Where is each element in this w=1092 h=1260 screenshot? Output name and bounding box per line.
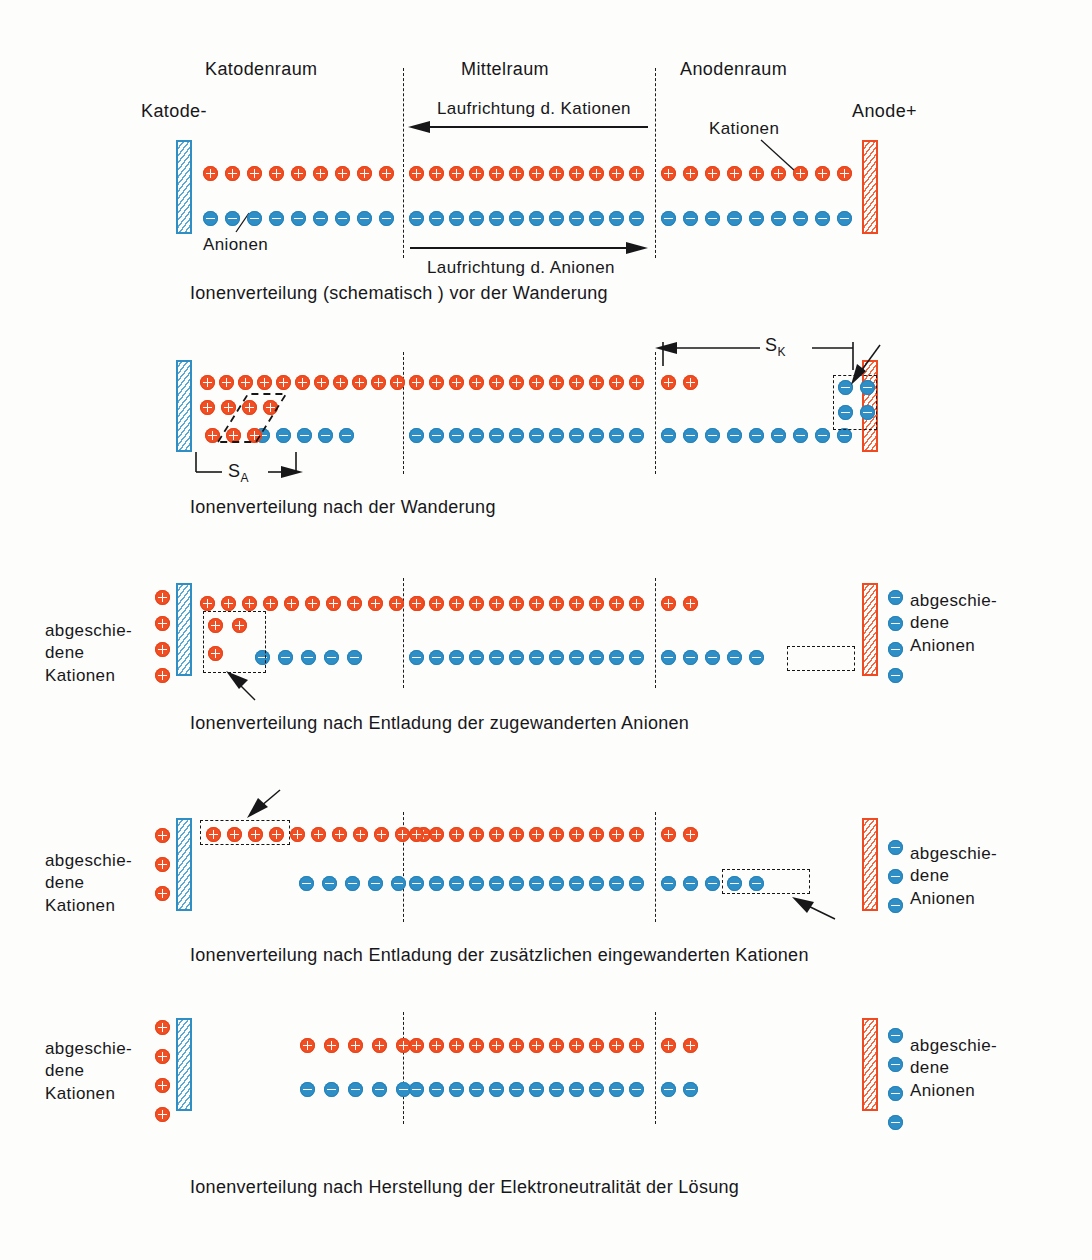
cation-ion xyxy=(300,1038,315,1053)
anion-ion xyxy=(683,1082,698,1097)
caption-stage-4: Ionenverteilung nach Entladung der zusät… xyxy=(190,944,809,967)
cation-ion xyxy=(469,1038,484,1053)
cation-ion xyxy=(429,1038,444,1053)
cathode-electrode xyxy=(176,1018,192,1111)
anion-ion xyxy=(449,1082,464,1097)
separator-middle-anode xyxy=(655,1012,656,1124)
anion-ion xyxy=(372,1082,387,1097)
deposited-cations-line-2: dene xyxy=(45,1061,84,1080)
anion-ion xyxy=(589,1082,604,1097)
anion-ion xyxy=(469,1082,484,1097)
anion-ion xyxy=(429,1082,444,1097)
anion-ion xyxy=(324,1082,339,1097)
cation-ion xyxy=(509,1038,524,1053)
cation-ion xyxy=(348,1038,363,1053)
deposited-cations-line-1: abgeschie- xyxy=(45,1039,132,1058)
anion-ion xyxy=(609,1082,624,1097)
anion-ion xyxy=(489,1082,504,1097)
deposited-cation-ion xyxy=(155,1020,170,1035)
deposited-anions-line-1: abgeschie- xyxy=(910,1036,997,1055)
cation-ion xyxy=(549,1038,564,1053)
cation-ion xyxy=(661,1038,676,1053)
anion-ion xyxy=(300,1082,315,1097)
cation-ion xyxy=(683,1038,698,1053)
cation-ion xyxy=(449,1038,464,1053)
deposited-anions-line-3: Anionen xyxy=(910,1081,975,1100)
side-label-deposited-anions: abgeschie- dene Anionen xyxy=(910,1035,1040,1102)
cation-ion xyxy=(589,1038,604,1053)
anion-ion xyxy=(569,1082,584,1097)
anion-ion xyxy=(529,1082,544,1097)
deposited-anions-line-2: dene xyxy=(910,1058,949,1077)
arrow-to-anion-box-stage-4 xyxy=(0,0,1092,980)
caption-stage-5: Ionenverteilung nach Herstellung der Ele… xyxy=(190,1176,739,1199)
cation-ion xyxy=(324,1038,339,1053)
cation-ion xyxy=(629,1038,644,1053)
anion-ion xyxy=(348,1082,363,1097)
cation-ion xyxy=(489,1038,504,1053)
anion-ion xyxy=(509,1082,524,1097)
anion-ion xyxy=(549,1082,564,1097)
side-label-deposited-cations: abgeschie- dene Kationen xyxy=(45,1038,165,1105)
deposited-anion-ion xyxy=(888,1028,903,1043)
deposited-cation-ion xyxy=(155,1107,170,1122)
deposited-anion-ion xyxy=(888,1057,903,1072)
deposited-anion-ion xyxy=(888,1086,903,1101)
anion-ion xyxy=(629,1082,644,1097)
anion-ion xyxy=(409,1082,424,1097)
cation-ion xyxy=(409,1038,424,1053)
cation-ion xyxy=(372,1038,387,1053)
separator-cathode-middle xyxy=(403,1012,404,1124)
deposited-cation-ion xyxy=(155,1078,170,1093)
cation-ion xyxy=(609,1038,624,1053)
deposited-anion-ion xyxy=(888,1115,903,1130)
cation-ion xyxy=(529,1038,544,1053)
cation-ion xyxy=(569,1038,584,1053)
anion-ion xyxy=(661,1082,676,1097)
anode-electrode xyxy=(862,1018,878,1111)
deposited-cation-ion xyxy=(155,1049,170,1064)
deposited-cations-line-3: Kationen xyxy=(45,1084,115,1103)
